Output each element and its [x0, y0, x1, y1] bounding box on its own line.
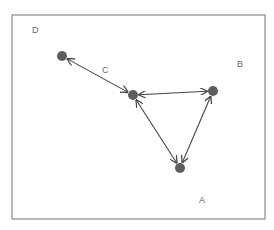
edges-group: [67, 59, 210, 163]
label-b: B: [237, 59, 243, 69]
network-diagram: DCBA: [0, 0, 274, 230]
diagram-frame: [12, 15, 265, 219]
node-n2: [128, 90, 138, 100]
edge-n1-n2: [67, 59, 127, 92]
edge-n2-n3: [139, 91, 207, 94]
label-d: D: [32, 25, 39, 35]
label-a: A: [199, 195, 205, 205]
edge-n2-n4: [136, 100, 177, 163]
edge-n3-n4: [182, 97, 210, 163]
label-c: C: [102, 65, 109, 75]
node-n4: [175, 163, 185, 173]
node-n3: [208, 86, 218, 96]
node-n1: [57, 51, 67, 61]
nodes-group: [57, 51, 218, 173]
